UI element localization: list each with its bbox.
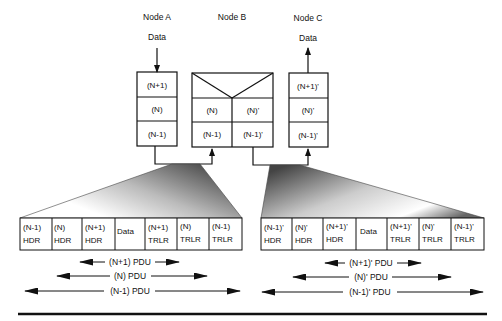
svg-text:(N)': (N)' — [295, 223, 308, 232]
link-a-to-b — [155, 146, 212, 164]
svg-text:TRLR: TRLR — [454, 235, 475, 244]
svg-text:Data: Data — [360, 227, 377, 236]
svg-text:HDR: HDR — [295, 236, 313, 245]
pdu-n-minus-1-label: (N-1) PDU — [110, 286, 150, 296]
svg-text:(N): (N) — [180, 222, 191, 231]
svg-text:(N)': (N)' — [422, 222, 435, 231]
pdu-n-minus-1-prime-label: (N-1)' PDU — [349, 287, 390, 297]
svg-text:(N+1)': (N+1)' — [326, 222, 348, 231]
node-a-title: Node A — [143, 12, 171, 22]
left-expansion-wedge — [20, 164, 242, 218]
node-b-title: Node B — [218, 12, 247, 22]
node-a-layer-n: (N) — [151, 105, 162, 114]
node-a-layer-n-minus-1: (N-1) — [148, 130, 167, 139]
svg-text:HDR: HDR — [326, 235, 344, 244]
svg-text:(N): (N) — [54, 223, 65, 232]
svg-text:(N+1): (N+1) — [148, 223, 169, 232]
svg-text:(N-1)': (N-1)' — [454, 222, 474, 231]
node-c-layer-n: (N)' — [302, 106, 315, 115]
svg-text:TRLR: TRLR — [422, 235, 443, 244]
node-c-layer-n-plus-1: (N+1)' — [297, 82, 319, 91]
svg-text:HDR: HDR — [264, 236, 282, 245]
node-c-data-label: Data — [299, 33, 317, 43]
svg-text:TRLR: TRLR — [212, 235, 233, 244]
svg-text:TRLR: TRLR — [180, 235, 201, 244]
node-a-layer-n-plus-1: (N+1) — [147, 81, 168, 90]
node-b-layer-n: (N) — [206, 106, 217, 115]
svg-text:(N-1)': (N-1)' — [264, 223, 284, 232]
node-b-layer-n-prime: (N)' — [247, 106, 260, 115]
node-a-data-label: Data — [148, 32, 166, 42]
protocol-layer-diagram: Node A Node B Node C Data Data (N+1) (N)… — [0, 0, 502, 321]
node-b-layer-n-minus-1: (N-1) — [203, 130, 222, 139]
node-c-layer-n-minus-1: (N-1)' — [298, 131, 318, 140]
svg-text:(N+1): (N+1) — [85, 223, 106, 232]
pdu-n-plus-1-label: (N+1) PDU — [109, 257, 151, 267]
link-b-to-c — [253, 147, 308, 165]
pdu-n-plus-1-prime-label: (N+1)' PDU — [349, 258, 392, 268]
pdu-n-label: (N) PDU — [114, 271, 146, 281]
node-b-layer-n-minus-1-prime: (N-1)' — [243, 130, 263, 139]
svg-text:HDR: HDR — [85, 236, 103, 245]
svg-text:Data: Data — [117, 227, 134, 236]
svg-text:HDR: HDR — [23, 236, 41, 245]
svg-text:TRLR: TRLR — [390, 235, 411, 244]
svg-text:TRLR: TRLR — [148, 236, 169, 245]
right-expansion-wedge — [261, 165, 484, 218]
svg-text:(N-1): (N-1) — [23, 223, 42, 232]
svg-text:(N-1): (N-1) — [212, 222, 231, 231]
pdu-n-prime-label: (N)' PDU — [354, 272, 388, 282]
node-c-title: Node C — [294, 13, 323, 23]
svg-text:(N+1)': (N+1)' — [390, 222, 412, 231]
svg-text:HDR: HDR — [54, 236, 72, 245]
